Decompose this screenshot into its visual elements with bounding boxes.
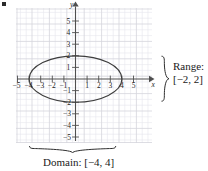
x-tick-label--3: −3 (36, 82, 44, 90)
x-tick-label-3: 3 (109, 82, 113, 90)
range-value: [−2, 2] (173, 73, 204, 86)
x-tick-label--4: −4 (25, 82, 33, 90)
y-tick-label--1: −1 (63, 87, 71, 95)
x-axis-label: x (152, 81, 155, 89)
x-tick-label-5: 5 (132, 82, 136, 90)
domain-brace (30, 146, 116, 153)
y-tick-label--4: −4 (63, 122, 71, 130)
y-axis-label: y (70, 1, 73, 9)
y-tick-label--3: −3 (63, 110, 71, 118)
domain-annotation: Domain: [−4, 4] (43, 156, 114, 168)
x-tick-label--5: −5 (13, 82, 21, 90)
y-tick-label-2: 2 (67, 52, 71, 60)
range-brace (162, 56, 170, 101)
y-tick-label-4: 4 (67, 29, 71, 37)
x-tick-label-4: 4 (120, 82, 124, 90)
x-tick-label-1: 1 (85, 82, 89, 90)
range-annotation: Range: [−2, 2] (173, 60, 204, 86)
range-label: Range: (173, 60, 204, 73)
y-tick-label-5: 5 (67, 18, 71, 26)
x-tick-label-2: 2 (97, 82, 101, 90)
y-tick-label-3: 3 (67, 41, 71, 49)
y-tick-label-1: 1 (67, 64, 71, 72)
figure-screenshot: −5 −4 −3 −2 −1 1 2 3 4 5 5 4 3 2 1 −1 −2… (0, 0, 208, 171)
x-tick-label--2: −2 (48, 82, 56, 90)
y-tick-label--2: −2 (63, 99, 71, 107)
y-tick-label--5: −5 (63, 134, 71, 142)
